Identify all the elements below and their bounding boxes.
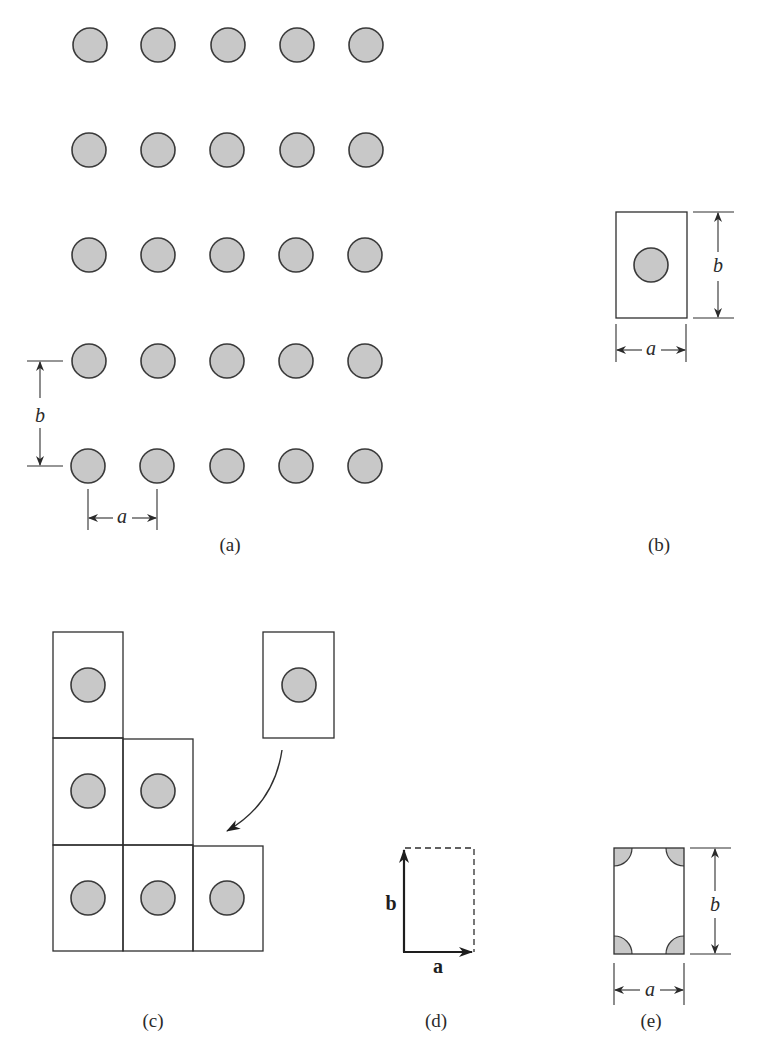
atom bbox=[211, 28, 245, 62]
atom bbox=[348, 238, 382, 272]
dimension-b-label: b bbox=[35, 404, 45, 426]
corner-atoms bbox=[596, 830, 702, 972]
atom bbox=[349, 133, 383, 167]
atom bbox=[141, 344, 175, 378]
atom bbox=[210, 238, 244, 272]
dimension-a-label: a bbox=[117, 505, 127, 527]
caption-a: (a) bbox=[219, 534, 240, 556]
atom bbox=[72, 238, 106, 272]
atom bbox=[71, 449, 105, 483]
atom bbox=[141, 881, 175, 915]
vector-b-label: b bbox=[385, 892, 396, 914]
dashed-cell-outline bbox=[405, 848, 474, 952]
atom bbox=[140, 449, 174, 483]
atom bbox=[279, 449, 313, 483]
vector-a-label: a bbox=[433, 955, 443, 977]
atom bbox=[279, 344, 313, 378]
dimension-a: a bbox=[616, 324, 686, 362]
dimension-a-label: a bbox=[646, 337, 656, 359]
atom bbox=[141, 28, 175, 62]
atom bbox=[73, 28, 107, 62]
lattice-row-5 bbox=[71, 449, 382, 483]
dimension-b: b bbox=[690, 848, 731, 954]
dimension-a: a bbox=[614, 963, 684, 1005]
dimension-a: a bbox=[88, 489, 157, 530]
atom bbox=[72, 344, 106, 378]
atom bbox=[72, 133, 106, 167]
lattice-row-1 bbox=[73, 28, 383, 62]
caption-d: (d) bbox=[425, 1010, 447, 1032]
lattice-figure: b a (a) b a (b) bbox=[0, 0, 763, 1063]
dimension-b: b bbox=[693, 212, 734, 318]
atom bbox=[279, 238, 313, 272]
atom bbox=[280, 28, 314, 62]
atom bbox=[634, 248, 668, 282]
atom bbox=[348, 449, 382, 483]
panel-c-tiling: (c) bbox=[53, 632, 334, 1032]
unit-cell bbox=[614, 848, 684, 954]
placement-arrow-icon bbox=[227, 750, 282, 831]
lattice-row-3 bbox=[72, 238, 382, 272]
lattice-row-4 bbox=[72, 344, 382, 378]
atom bbox=[141, 133, 175, 167]
atom bbox=[282, 668, 316, 702]
atom bbox=[210, 881, 244, 915]
atom bbox=[349, 28, 383, 62]
atom bbox=[141, 774, 175, 808]
panel-d-basis-vectors: b a (d) bbox=[385, 848, 474, 1032]
atom bbox=[210, 133, 244, 167]
caption-e: (e) bbox=[640, 1010, 661, 1032]
dimension-b-label: b bbox=[710, 893, 720, 915]
dimension-b-label: b bbox=[713, 254, 723, 276]
atom bbox=[210, 344, 244, 378]
caption-b: (b) bbox=[648, 534, 670, 556]
panel-a-lattice: b a (a) bbox=[27, 28, 383, 556]
lattice-row-2 bbox=[72, 133, 383, 167]
atom bbox=[71, 668, 105, 702]
panel-e-corner-cell: b a (e) bbox=[596, 830, 731, 1032]
atom bbox=[348, 344, 382, 378]
caption-c: (c) bbox=[142, 1010, 163, 1032]
dimension-b: b bbox=[27, 361, 63, 466]
atom bbox=[210, 449, 244, 483]
atom bbox=[71, 774, 105, 808]
atom bbox=[280, 133, 314, 167]
atom bbox=[71, 881, 105, 915]
loose-unit-cell bbox=[263, 632, 334, 738]
panel-b-unit-cell: b a (b) bbox=[616, 212, 734, 556]
atom bbox=[141, 238, 175, 272]
dimension-a-label: a bbox=[645, 978, 655, 1000]
